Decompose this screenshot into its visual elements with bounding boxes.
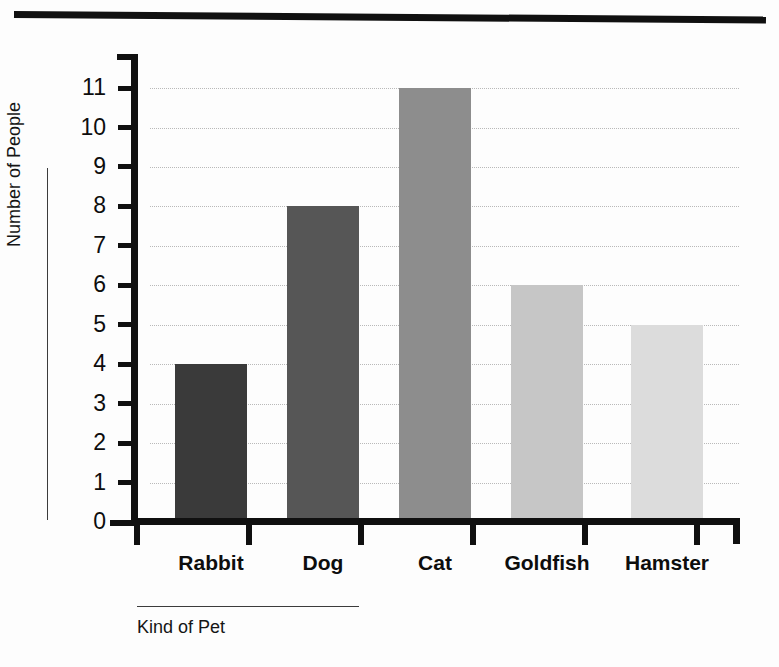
bar-rabbit — [175, 364, 247, 522]
x-axis-tick — [358, 524, 364, 545]
bar-cat — [399, 88, 471, 522]
x-axis-tick — [694, 524, 700, 545]
y-axis-tick — [118, 441, 134, 446]
bar-goldfish — [511, 285, 583, 522]
x-axis-tick — [470, 524, 476, 545]
x-axis-title-rule — [137, 606, 359, 607]
y-axis-tick — [118, 243, 134, 248]
x-axis-end-cap — [733, 518, 740, 544]
y-axis-title-rule — [47, 168, 48, 520]
y-axis-tick — [118, 362, 134, 367]
y-axis-tick — [118, 480, 134, 485]
x-axis-tick — [134, 524, 140, 545]
y-axis-tick-label: 0 — [72, 508, 106, 535]
y-axis-tick — [118, 86, 134, 91]
y-axis-tick — [118, 164, 134, 169]
y-axis-tick-label: 9 — [72, 153, 106, 180]
y-axis-tick-label: 7 — [72, 232, 106, 259]
y-axis-tick — [118, 283, 134, 288]
x-axis-tick — [246, 524, 252, 545]
x-axis-label-goldfish: Goldfish — [477, 551, 617, 575]
x-axis-title: Kind of Pet — [137, 617, 225, 638]
plot-area — [137, 60, 739, 522]
bar-hamster — [631, 325, 703, 522]
y-axis-tick-label: 8 — [72, 192, 106, 219]
y-axis-tick-label: 1 — [72, 469, 106, 496]
y-axis-title: Number of People — [4, 5, 25, 345]
y-axis-tick — [118, 204, 134, 209]
y-axis-tick-label: 5 — [72, 311, 106, 338]
y-axis-tick — [118, 401, 134, 406]
y-axis-tick-label: 6 — [72, 271, 106, 298]
y-axis-tick-label: 4 — [72, 350, 106, 377]
y-axis-tick — [118, 322, 134, 327]
y-axis-tick-label: 11 — [72, 74, 106, 101]
y-axis-tick-label: 3 — [72, 390, 106, 417]
bar-dog — [287, 206, 359, 522]
chart-page: 11109876543210 RabbitDogCatGoldfishHamst… — [0, 0, 779, 667]
y-axis-tick-label: 10 — [72, 114, 106, 141]
y-axis-tick — [118, 125, 134, 130]
x-axis-tick — [582, 524, 588, 545]
y-axis-tick-label: 2 — [72, 429, 106, 456]
x-axis-line — [131, 518, 740, 525]
x-axis-label-hamster: Hamster — [597, 551, 737, 575]
scan-artifact-bar — [14, 11, 766, 24]
